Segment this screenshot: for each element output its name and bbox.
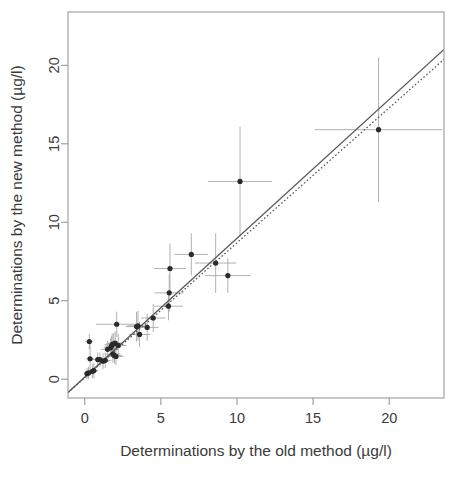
y-axis-label: Determinations by the new method (µg/l) bbox=[8, 65, 25, 344]
data-point bbox=[135, 323, 140, 328]
chart-figure: 05101520 05101520 Determinations by the … bbox=[0, 0, 457, 481]
data-point bbox=[166, 304, 171, 309]
data-point bbox=[213, 260, 218, 265]
scatter-plot: 05101520 05101520 Determinations by the … bbox=[0, 0, 457, 481]
data-point bbox=[116, 343, 121, 348]
data-point bbox=[114, 322, 119, 327]
y-tick-label: 15 bbox=[46, 136, 62, 152]
x-tick-label: 10 bbox=[229, 410, 245, 426]
x-tick-label: 5 bbox=[157, 410, 165, 426]
data-point bbox=[91, 368, 96, 373]
y-tick-label: 0 bbox=[46, 375, 62, 383]
data-point bbox=[137, 332, 142, 337]
data-point bbox=[189, 252, 194, 257]
data-point bbox=[167, 266, 172, 271]
data-point bbox=[225, 273, 230, 278]
x-axis-label: Determinations by the old method (µg/l) bbox=[120, 442, 392, 459]
data-point bbox=[145, 325, 150, 330]
x-tick-label: 0 bbox=[81, 410, 89, 426]
data-point bbox=[87, 356, 92, 361]
data-point bbox=[103, 358, 108, 363]
x-tick-label: 20 bbox=[381, 410, 397, 426]
data-point bbox=[151, 315, 156, 320]
data-point bbox=[167, 290, 172, 295]
data-point bbox=[87, 339, 92, 344]
data-point bbox=[113, 354, 118, 359]
y-tick-label: 10 bbox=[46, 214, 62, 230]
x-tick-label: 15 bbox=[305, 410, 321, 426]
data-point bbox=[237, 179, 242, 184]
y-tick-label: 20 bbox=[46, 57, 62, 73]
data-point bbox=[376, 127, 381, 132]
y-tick-label: 5 bbox=[46, 297, 62, 305]
